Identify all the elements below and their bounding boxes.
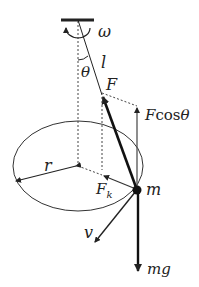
label-theta: θ (81, 63, 90, 81)
label-omega: ω (98, 22, 111, 41)
theta-arc (78, 56, 88, 60)
projection-dashed-horizontal (102, 93, 137, 106)
label-weight: mg (147, 260, 171, 278)
label-radius: r (44, 156, 53, 175)
velocity-vector (95, 191, 136, 242)
label-centripetal-force: Fk (95, 180, 112, 200)
centripetal-force-vector (104, 176, 136, 189)
tension-force-vector (103, 97, 137, 190)
mass-bob (133, 186, 142, 195)
label-velocity: v (84, 223, 93, 242)
label-vertical-component: Fcosθ (144, 106, 190, 124)
radius-dashed-line (78, 166, 102, 175)
label-length: l (101, 53, 106, 72)
label-force: F (105, 75, 118, 94)
conical-pendulum-diagram: ω l θ F Fcosθ r Fk m v mg (0, 0, 199, 287)
label-mass: m (146, 180, 161, 199)
